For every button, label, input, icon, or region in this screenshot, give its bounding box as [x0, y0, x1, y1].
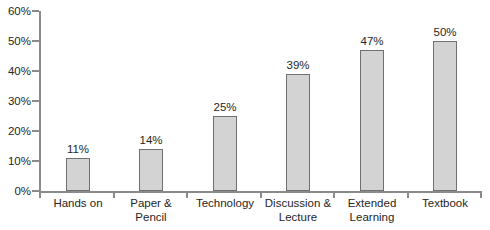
- bar-extended-learning: [360, 50, 384, 191]
- bar-hands-on: [66, 158, 90, 191]
- x-category-label-paper-pencil: Paper & Pencil: [109, 197, 193, 224]
- bar-textbook: [433, 41, 457, 191]
- x-category-label-hands-on: Hands on: [36, 197, 120, 211]
- y-tick-label: 0%: [0, 184, 31, 198]
- y-tick-label: 60%: [0, 4, 31, 18]
- y-tick: [32, 100, 39, 102]
- x-category-label-technology: Technology: [183, 197, 267, 211]
- y-tick: [32, 160, 39, 162]
- y-tick: [32, 40, 39, 42]
- bar-value-label-extended-learning: 47%: [347, 34, 397, 48]
- y-tick: [32, 190, 39, 192]
- x-category-label-extended-learning: Extended Learning: [330, 197, 414, 224]
- y-tick-label: 10%: [0, 154, 31, 168]
- bar-technology: [213, 116, 237, 191]
- bar-discussion-lecture: [286, 74, 310, 191]
- x-category-label-discussion-lecture: Discussion & Lecture: [256, 197, 340, 224]
- y-tick-label: 20%: [0, 124, 31, 138]
- y-tick: [32, 10, 39, 12]
- y-tick: [32, 130, 39, 132]
- y-tick: [32, 70, 39, 72]
- bar-value-label-textbook: 50%: [420, 25, 470, 39]
- y-tick-label: 30%: [0, 94, 31, 108]
- x-category-label-textbook: Textbook: [403, 197, 487, 211]
- bar-paper-pencil: [139, 149, 163, 191]
- bar-value-label-technology: 25%: [200, 100, 250, 114]
- bar-value-label-paper-pencil: 14%: [126, 133, 176, 147]
- bar-value-label-hands-on: 11%: [53, 142, 103, 156]
- y-tick-label: 40%: [0, 64, 31, 78]
- y-axis-line: [39, 11, 41, 193]
- bar-chart: 0%10%20%30%40%50%60%11%Hands on14%Paper …: [0, 0, 490, 230]
- bar-value-label-discussion-lecture: 39%: [273, 58, 323, 72]
- y-tick-label: 50%: [0, 34, 31, 48]
